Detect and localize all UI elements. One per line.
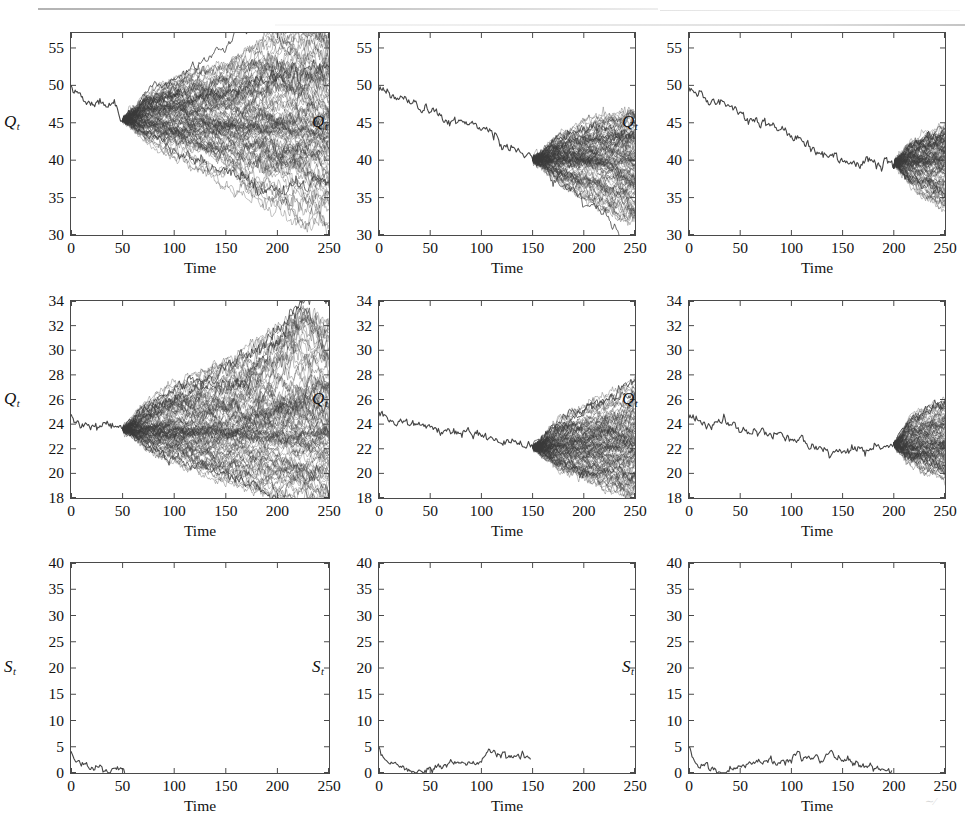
x-tick-label: 50: [410, 778, 450, 794]
x-tick-label: 250: [925, 778, 965, 794]
x-tick-label: 200: [257, 240, 297, 256]
scan-artifact-line-top-right: [660, 10, 960, 11]
y-tick-label: 26: [30, 392, 64, 408]
y-tick-label: 20: [648, 465, 682, 481]
x-axis-title: Time: [688, 797, 946, 815]
y-tick-label: 30: [648, 342, 682, 358]
x-tick-label: 200: [874, 503, 914, 519]
y-tick-label: 55: [30, 40, 64, 56]
x-tick-label: 50: [720, 240, 760, 256]
plot-area: [688, 562, 946, 774]
y-tick-label: 32: [30, 318, 64, 334]
x-tick-label: 100: [771, 503, 811, 519]
y-axis-title: St: [4, 657, 15, 677]
y-tick-label: 32: [648, 318, 682, 334]
x-tick-label: 100: [461, 778, 501, 794]
y-axis-subscript: t: [17, 398, 20, 409]
plot-area: [688, 32, 946, 236]
plot-area: [378, 562, 636, 774]
y-tick-label: 20: [30, 465, 64, 481]
y-tick-label: 32: [338, 318, 372, 334]
y-tick-label: 15: [648, 686, 682, 702]
y-tick-label: 35: [30, 190, 64, 206]
y-tick-label: 20: [338, 660, 372, 676]
y-axis-symbol: Q: [4, 112, 16, 131]
y-tick-label: 40: [30, 555, 64, 571]
y-axis-title: Qt: [622, 389, 637, 409]
y-tick-label: 5: [648, 739, 682, 755]
y-axis-symbol: Q: [4, 389, 16, 408]
y-axis-symbol: S: [312, 657, 321, 676]
x-tick-label: 200: [257, 503, 297, 519]
y-tick-label: 28: [648, 367, 682, 383]
y-tick-label: 40: [648, 555, 682, 571]
figure-canvas: ∼⁄ 303540455055050100150200250TimeQt3035…: [0, 0, 975, 831]
y-axis-subscript: t: [325, 398, 328, 409]
y-tick-label: 45: [648, 115, 682, 131]
x-tick-label: 50: [410, 240, 450, 256]
x-tick-label: 200: [564, 240, 604, 256]
y-tick-label: 25: [648, 634, 682, 650]
x-tick-label: 150: [206, 778, 246, 794]
x-tick-label: 100: [461, 503, 501, 519]
x-tick-label: 0: [669, 503, 709, 519]
x-tick-label: 0: [359, 240, 399, 256]
x-tick-label: 150: [823, 503, 863, 519]
x-tick-label: 150: [206, 240, 246, 256]
plot-area: [378, 32, 636, 236]
x-tick-label: 150: [206, 503, 246, 519]
y-axis-symbol: Q: [312, 112, 324, 131]
y-tick-label: 35: [648, 190, 682, 206]
x-tick-label: 150: [513, 240, 553, 256]
x-tick-label: 150: [823, 778, 863, 794]
y-tick-label: 24: [30, 416, 64, 432]
y-tick-label: 20: [338, 465, 372, 481]
x-axis-title: Time: [70, 259, 330, 277]
y-axis-title: Qt: [622, 112, 637, 132]
x-tick-label: 0: [359, 778, 399, 794]
x-tick-label: 50: [103, 240, 143, 256]
y-tick-label: 50: [30, 77, 64, 93]
x-tick-label: 0: [51, 503, 91, 519]
x-axis-title: Time: [378, 797, 636, 815]
x-tick-label: 100: [771, 778, 811, 794]
y-tick-label: 30: [338, 342, 372, 358]
y-tick-label: 30: [30, 342, 64, 358]
y-axis-title: Qt: [312, 112, 327, 132]
y-axis-subscript: t: [13, 666, 16, 677]
y-axis-symbol: Q: [312, 389, 324, 408]
y-tick-label: 22: [338, 441, 372, 457]
y-axis-title: St: [622, 657, 633, 677]
y-tick-label: 35: [338, 190, 372, 206]
y-axis-title: Qt: [4, 112, 19, 132]
y-tick-label: 10: [30, 713, 64, 729]
x-tick-label: 50: [410, 503, 450, 519]
x-axis-title: Time: [688, 259, 946, 277]
plot-area: [70, 562, 330, 774]
x-tick-label: 0: [669, 240, 709, 256]
y-tick-label: 26: [648, 392, 682, 408]
y-tick-label: 50: [648, 77, 682, 93]
x-tick-label: 100: [154, 240, 194, 256]
x-tick-label: 200: [564, 778, 604, 794]
y-axis-subscript: t: [325, 121, 328, 132]
y-tick-label: 15: [30, 686, 64, 702]
x-tick-label: 0: [359, 503, 399, 519]
y-tick-label: 28: [30, 367, 64, 383]
y-axis-title: Qt: [312, 389, 327, 409]
x-tick-label: 0: [669, 778, 709, 794]
x-axis-title: Time: [70, 797, 330, 815]
y-axis-subscript: t: [635, 121, 638, 132]
y-axis-subscript: t: [631, 666, 634, 677]
x-axis-title: Time: [688, 522, 946, 540]
x-tick-label: 250: [925, 240, 965, 256]
x-tick-label: 100: [461, 240, 501, 256]
plot-area: [70, 32, 330, 236]
y-axis-subscript: t: [17, 121, 20, 132]
y-tick-label: 15: [338, 686, 372, 702]
plot-area: [688, 300, 946, 499]
scan-artifact-line-second: [275, 24, 965, 26]
y-tick-label: 45: [338, 115, 372, 131]
x-tick-label: 100: [154, 503, 194, 519]
y-axis-subscript: t: [321, 666, 324, 677]
